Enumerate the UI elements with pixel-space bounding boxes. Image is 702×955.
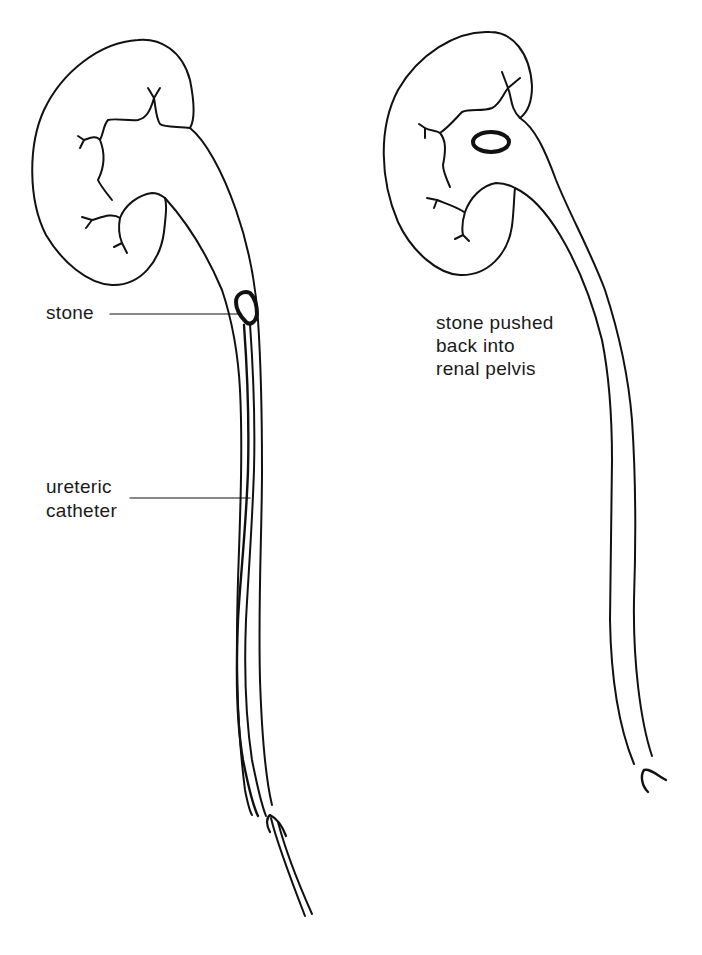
ureteric-catheter-label-line1: ureteric — [46, 476, 112, 498]
catheter-entry-hook — [267, 815, 286, 836]
ureteric-catheter-label-line2: catheter — [46, 500, 117, 522]
catheter-entry-shaft-a — [271, 818, 305, 916]
stone-label: stone — [46, 302, 94, 324]
stone-pushed-label-line1: stone pushed — [436, 312, 554, 334]
left-ureter-outer-wall — [190, 128, 272, 805]
left-stone — [236, 292, 257, 324]
right-ureter-outer-wall — [520, 118, 652, 756]
right-ureter-inner-wall — [515, 188, 634, 764]
left-renal-pelvis-outline — [78, 88, 190, 253]
right-kidney-ureter-drawing — [384, 32, 666, 792]
right-renal-pelvis-outline — [419, 72, 520, 241]
stone-pushed-label-line3: renal pelvis — [436, 358, 536, 380]
stone-pushed-label-line2: back into — [436, 335, 515, 357]
right-ureter-end-hook — [642, 770, 666, 792]
catheter-entry-shaft-b — [278, 822, 312, 914]
right-stone-in-pelvis — [473, 132, 509, 152]
kidney-stone-figure: stone ureteric catheter stone pushed bac… — [0, 0, 702, 955]
left-kidney-outline — [32, 40, 194, 285]
